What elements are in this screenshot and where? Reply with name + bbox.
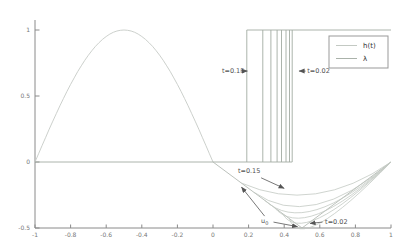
annotation-t-002-bottom-label: t=0.02 (325, 218, 347, 226)
y-tick-label: 0 (26, 158, 30, 165)
lambda-curve (35, 30, 213, 162)
u-curve (282, 162, 391, 223)
x-tick-label: -0.2 (172, 231, 184, 238)
y-tick-label: 0.5 (20, 92, 30, 99)
annotation-t-002-top-label: t=0.02 (307, 67, 329, 75)
y-tick-label: 1 (26, 26, 30, 33)
matlab-figure: -1-0.8-0.6-0.4-0.200.20.40.60.81-0.500.5… (0, 0, 416, 250)
x-tick-label: -0.6 (100, 231, 112, 238)
x-tick-label: 0.4 (279, 231, 289, 238)
y-tick-label: -0.5 (18, 224, 30, 231)
legend-label-lambda: λ (363, 55, 367, 63)
x-tick-label: 1 (389, 231, 393, 238)
x-tick-label: 0 (211, 231, 215, 238)
x-tick-label: -1 (32, 231, 38, 238)
x-tick-label: 0.6 (315, 231, 325, 238)
x-tick-label: -0.4 (136, 231, 148, 238)
annotation-u0-subscript: 0 (265, 220, 268, 226)
x-tick-label: -0.8 (65, 231, 77, 238)
legend-box (329, 36, 388, 68)
plot-canvas: -1-0.8-0.6-0.4-0.200.20.40.60.81-0.500.5… (0, 0, 416, 250)
annotation-t-015-bottom-arrow (261, 178, 284, 189)
annotations: t=0.15t=0.02t=0.15u0t=0.02 (222, 67, 348, 227)
annotation-t-015-bottom-label: t=0.15 (238, 167, 260, 175)
x-tick-label: 0.2 (244, 231, 254, 238)
annotation-u0-label: u0 (261, 217, 268, 226)
legend: h(t) λ (329, 36, 388, 68)
x-tick-label: 0.8 (351, 231, 361, 238)
annotation-t-015-top-label: t=0.15 (222, 67, 244, 75)
legend-label-h: h(t) (363, 42, 376, 50)
